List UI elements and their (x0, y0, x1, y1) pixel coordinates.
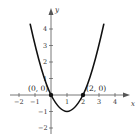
point-two-zero (81, 93, 85, 97)
y-axis-label: y (54, 6, 60, 14)
parabola-curve (30, 0, 51, 95)
y-tick-label: 2 (43, 58, 47, 66)
x-tick-label: 3 (97, 98, 101, 106)
parabola-graph: x y −2 −1 1 2 3 4 4 3 2 1 −1 −2 (0, 0, 137, 140)
point-origin-label: (0, 0) (28, 84, 48, 93)
y-axis-arrow-icon (49, 8, 54, 15)
y-tick-label: −2 (38, 124, 48, 132)
y-axis: y (49, 6, 61, 134)
x-tick-label: 4 (113, 98, 117, 106)
y-tick-label: 3 (43, 42, 47, 50)
x-tick-label: 1 (65, 98, 69, 106)
x-tick-label: −1 (30, 98, 40, 106)
x-tick-label: −2 (14, 98, 24, 106)
point-two-zero-label: (2, 0) (86, 84, 106, 93)
y-tick-labels: 4 3 2 1 −1 −2 (38, 25, 48, 132)
x-axis-label: x (131, 100, 135, 108)
y-tick-label: −1 (38, 108, 48, 116)
y-tick-label: 4 (43, 25, 47, 33)
point-origin (49, 93, 53, 97)
x-tick-labels: −2 −1 1 2 3 4 (14, 98, 117, 106)
x-axis-arrow-icon (123, 93, 130, 98)
x-tick-label: 2 (81, 98, 85, 106)
